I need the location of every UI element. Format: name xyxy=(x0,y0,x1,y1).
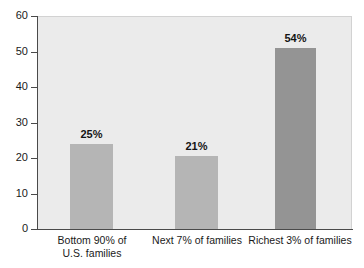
bar-value-label: 21% xyxy=(175,141,218,152)
y-axis-tick-label: 30 xyxy=(16,117,28,128)
y-axis-tick-label: 0 xyxy=(22,223,28,234)
x-axis-category-label: Bottom 90% ofU.S. families xyxy=(48,234,136,259)
y-axis-tick-label: 10 xyxy=(16,188,28,199)
x-axis-category-label-line: Bottom 90% of xyxy=(48,234,136,247)
bar xyxy=(70,144,113,229)
y-axis-tick xyxy=(31,16,37,17)
y-axis-tick xyxy=(31,123,37,124)
x-axis-category-label: Next 7% of families xyxy=(144,234,250,247)
bar-value-label: 25% xyxy=(70,129,113,140)
y-axis-tick xyxy=(31,158,37,159)
bar-chart: 0102030405060 25%21%54% Bottom 90% ofU.S… xyxy=(0,0,364,268)
bar xyxy=(275,48,316,229)
x-axis-category-label-line: Richest 3% of families xyxy=(245,234,355,247)
bar xyxy=(175,156,218,229)
y-axis-tick-label: 50 xyxy=(16,46,28,57)
x-axis-category-label-line: U.S. families xyxy=(48,247,136,260)
y-axis-tick-label: 20 xyxy=(16,152,28,163)
y-axis-tick xyxy=(31,229,37,230)
y-axis-tick xyxy=(31,52,37,53)
bar-value-label: 54% xyxy=(275,33,316,44)
y-axis-line xyxy=(37,16,38,230)
y-axis-tick-label: 60 xyxy=(16,10,28,21)
y-axis-tick xyxy=(31,194,37,195)
x-axis-category-label: Richest 3% of families xyxy=(245,234,355,247)
x-axis-line xyxy=(37,229,353,230)
y-axis-tick-label: 40 xyxy=(16,81,28,92)
y-axis-tick xyxy=(31,87,37,88)
x-axis-category-label-line: Next 7% of families xyxy=(144,234,250,247)
